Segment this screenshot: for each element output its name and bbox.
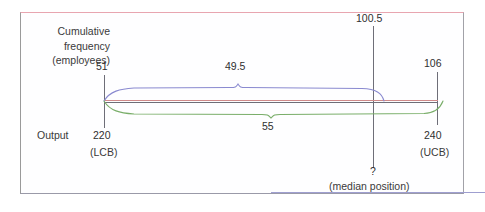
output-axis-label: Output	[37, 129, 69, 142]
cf-label-line-2: frequency	[30, 39, 110, 54]
left-anchor-cumulative-frequency: 51	[96, 60, 108, 73]
figure-screenshot: Cumulative frequency (employees) Output …	[0, 0, 485, 212]
median-cumulative-frequency: 100.5	[356, 12, 382, 25]
right-anchor-cumulative-frequency: 106	[424, 57, 442, 70]
lower-brace-label: 55	[262, 120, 274, 133]
upper-brace-label: 49.5	[225, 60, 245, 73]
right-anchor-output-value: 240	[424, 129, 442, 142]
median-output-value: ?	[370, 165, 376, 178]
right-anchor-bound-label: (UCB)	[420, 146, 449, 159]
median-position-caption: (median position)	[329, 180, 410, 193]
left-anchor-output-value: 220	[93, 129, 111, 142]
left-anchor-bound-label: (LCB)	[90, 146, 117, 159]
cf-label-line-1: Cumulative	[30, 24, 110, 39]
